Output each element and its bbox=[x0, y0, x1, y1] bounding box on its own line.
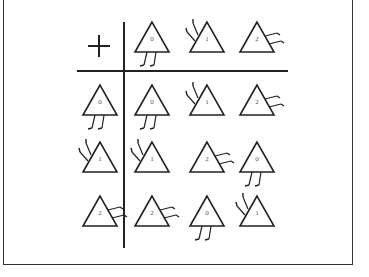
operator-symbol bbox=[88, 35, 110, 57]
triangle-value-label: 0 bbox=[150, 98, 154, 106]
cell-triangle-r0-c2: 2 bbox=[240, 85, 284, 115]
triangle-value-label: 2 bbox=[150, 209, 154, 217]
triangle-value-label: 1 bbox=[150, 155, 154, 163]
triangle-value-label: 2 bbox=[205, 155, 209, 163]
triangle-value-label: 2 bbox=[255, 98, 259, 106]
cell-triangle-r2-c1: 0 bbox=[190, 196, 224, 240]
cell-triangle-r0-c1: 1 bbox=[186, 82, 224, 115]
triangle-value-label: 1 bbox=[255, 209, 259, 217]
cell-triangle-r1-c1: 2 bbox=[190, 142, 234, 172]
row-header-triangle-1: 1 bbox=[79, 139, 117, 172]
column-header-triangle-2: 2 bbox=[240, 22, 284, 52]
cell-triangle-r1-c0: 1 bbox=[131, 139, 169, 172]
cell-triangle-r2-c2: 1 bbox=[236, 193, 274, 226]
triangle-value-label: 0 bbox=[150, 35, 154, 43]
triangle-value-label: 0 bbox=[205, 209, 209, 217]
triangle-value-label: 0 bbox=[98, 98, 102, 106]
column-header-triangle-0: 0 bbox=[135, 22, 169, 66]
triangle-value-label: 1 bbox=[98, 155, 102, 163]
cell-triangle-r2-c0: 2 bbox=[135, 196, 179, 226]
column-header-triangle-1: 1 bbox=[186, 19, 224, 52]
cell-triangle-r1-c2: 0 bbox=[240, 142, 274, 186]
triangle-value-label: 1 bbox=[205, 35, 209, 43]
triangle-layer: 012012012120201 bbox=[79, 19, 284, 240]
row-header-triangle-0: 0 bbox=[83, 85, 117, 129]
cell-triangle-r0-c0: 0 bbox=[135, 85, 169, 129]
addition-table-diagram: 012012012120201 bbox=[0, 0, 369, 277]
triangle-value-label: 1 bbox=[205, 98, 209, 106]
triangle-value-label: 2 bbox=[98, 209, 102, 217]
triangle-value-label: 2 bbox=[255, 35, 259, 43]
triangle-value-label: 0 bbox=[255, 155, 259, 163]
row-header-triangle-2: 2 bbox=[83, 196, 127, 226]
